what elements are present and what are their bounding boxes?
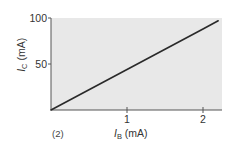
panel-label: (2) [52,128,64,139]
y-tick-label-50: 50 [35,58,47,70]
x-tick-label-1: 1 [124,113,130,125]
x-axis-label: IB (mA) [114,127,148,141]
y-axis-label: IC (mA) [15,38,29,72]
chart: 50100 12 IC (mA) IB (mA) (2) [0,0,232,148]
y-tick-label-100: 100 [29,12,47,24]
y-ticks: 50100 [29,12,51,70]
x-tick-label-2: 2 [200,113,206,125]
